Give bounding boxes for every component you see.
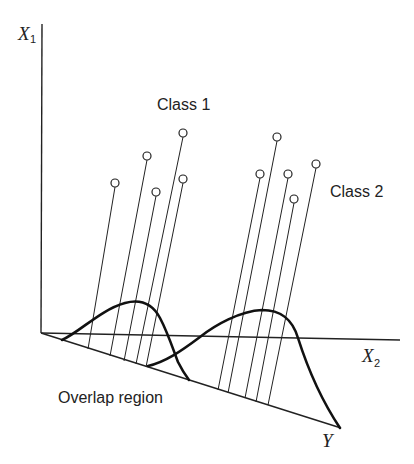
overlap-region-label: Overlap region xyxy=(58,389,163,406)
svg-text:2: 2 xyxy=(374,357,380,369)
class1-point-marker xyxy=(179,175,187,183)
class2-projection-lines xyxy=(218,141,316,405)
x1-axis xyxy=(41,24,42,333)
y-axis-label: Y xyxy=(322,430,335,451)
svg-text:X: X xyxy=(361,345,375,366)
x2-axis xyxy=(41,333,400,340)
class2-point-marker xyxy=(284,170,292,178)
x1-axis-label: X 1 xyxy=(17,23,36,45)
x2-axis-label: X 2 xyxy=(361,345,380,369)
svg-text:X: X xyxy=(17,23,31,44)
y-axis xyxy=(41,333,341,428)
class2-point-marker xyxy=(273,133,281,141)
class1-points xyxy=(111,129,187,196)
class2-label: Class 2 xyxy=(330,183,383,200)
class1-projection-lines xyxy=(88,137,183,367)
class2-point-marker xyxy=(312,160,320,168)
class1-point-marker xyxy=(179,129,187,137)
class1-density-curve xyxy=(62,302,189,380)
fisher-projection-diagram: X 1 X 2 Y Class 1 Class 2 Overlap region xyxy=(0,0,414,464)
class2-point-marker xyxy=(256,170,264,178)
class1-point-marker xyxy=(143,152,151,160)
class2-point-marker xyxy=(290,195,298,203)
class1-label: Class 1 xyxy=(157,96,210,113)
class2-density-curve xyxy=(148,310,340,428)
class1-point-marker xyxy=(111,179,119,187)
class1-point-marker xyxy=(152,188,160,196)
class2-points xyxy=(256,133,320,203)
svg-text:1: 1 xyxy=(30,33,36,45)
